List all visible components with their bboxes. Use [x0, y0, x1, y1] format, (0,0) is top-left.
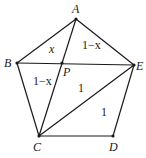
diagonal-be: [17, 63, 134, 65]
vertex-label-e: E: [135, 59, 144, 73]
point-label-p: P: [62, 65, 71, 79]
pentagon-figure: A B C D E P x 1−x 1−x 1 1: [0, 0, 146, 158]
segment-de: [113, 65, 134, 136]
segment-ab: [17, 19, 76, 63]
region-label-abp: x: [48, 42, 55, 56]
vertex-b-dot: [15, 61, 18, 64]
vertex-a-dot: [74, 17, 77, 20]
vertex-label-c: C: [33, 140, 42, 154]
vertex-d-dot: [111, 134, 114, 137]
region-label-pce: 1: [78, 81, 84, 95]
vertex-label-a: A: [71, 2, 80, 16]
diagonal-ce: [39, 65, 134, 136]
vertex-label-b: B: [4, 56, 12, 70]
region-label-ape: 1−x: [82, 38, 101, 52]
region-label-cde: 1: [101, 105, 107, 119]
vertex-label-d: D: [108, 140, 118, 154]
region-label-bpc: 1−x: [33, 74, 52, 88]
vertex-c-dot: [37, 134, 40, 137]
